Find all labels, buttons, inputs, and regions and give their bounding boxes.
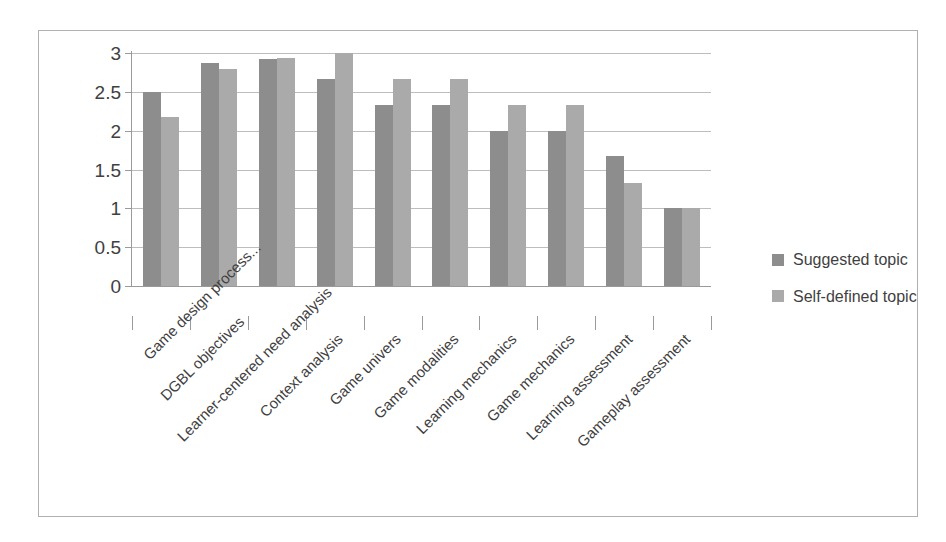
bar-group[interactable]: [364, 53, 422, 286]
bar-group[interactable]: [422, 53, 480, 286]
x-axis-tick: [537, 316, 538, 330]
legend-item[interactable]: Self-defined topic: [772, 288, 946, 306]
legend-swatch-icon: [772, 290, 784, 302]
x-axis-tick: [711, 316, 712, 330]
bar-group[interactable]: [537, 53, 595, 286]
bar[interactable]: [317, 79, 335, 286]
y-axis-tick-label: 2: [110, 121, 121, 140]
y-axis-tick: [125, 92, 132, 93]
y-axis-tick: [125, 208, 132, 209]
plot-area: 32.521.510.50: [132, 53, 711, 286]
bar-group[interactable]: [306, 53, 364, 286]
x-axis-tick: [422, 316, 423, 330]
bar[interactable]: [490, 131, 508, 286]
y-axis-tick: [125, 131, 132, 132]
bar-group[interactable]: [132, 53, 190, 286]
y-axis-tick-label: 2.5: [95, 82, 121, 101]
y-axis-tick: [125, 286, 132, 287]
y-axis-tick-label: 3: [110, 44, 121, 63]
x-axis-category-label: Game design process...: [140, 331, 171, 362]
x-axis-tick: [479, 316, 480, 330]
bar-group[interactable]: [479, 53, 537, 286]
bar[interactable]: [393, 79, 411, 286]
chart-container: 32.521.510.50 Game design process...DGBL…: [38, 30, 918, 517]
y-axis-tick: [125, 53, 132, 54]
y-axis-tick-label: 1: [110, 199, 121, 218]
y-axis-tick: [125, 170, 132, 171]
bar[interactable]: [161, 117, 179, 286]
bar[interactable]: [432, 105, 450, 286]
bar[interactable]: [548, 131, 566, 286]
legend-item[interactable]: Suggested topic: [772, 251, 946, 269]
y-axis-tick: [125, 247, 132, 248]
bar[interactable]: [335, 53, 353, 286]
legend-label: Self-defined topic: [793, 288, 917, 306]
bar[interactable]: [606, 156, 624, 286]
x-axis-tick: [364, 316, 365, 330]
bar[interactable]: [682, 208, 700, 286]
bar-group[interactable]: [595, 53, 653, 286]
y-axis-tick-label: 0.5: [95, 238, 121, 257]
legend-label: Suggested topic: [793, 251, 908, 269]
x-axis-category-label: Learner-centered need analysis: [174, 331, 287, 444]
bar[interactable]: [508, 105, 526, 286]
bar[interactable]: [566, 105, 584, 286]
bar[interactable]: [219, 69, 237, 286]
x-axis-tick: [132, 316, 133, 330]
bar[interactable]: [375, 105, 393, 286]
bar[interactable]: [201, 63, 219, 286]
x-axis-tick: [248, 316, 249, 330]
legend-swatch-icon: [772, 254, 784, 266]
bar-group[interactable]: [653, 53, 711, 286]
y-axis-tick-label: 0: [110, 277, 121, 296]
chart-legend: Suggested topicSelf-defined topic: [772, 251, 946, 324]
bar[interactable]: [277, 58, 295, 286]
bars-layer: [132, 53, 711, 286]
bar[interactable]: [624, 183, 642, 286]
bar[interactable]: [450, 79, 468, 286]
y-axis-tick-label: 1.5: [95, 160, 121, 179]
x-axis-tick: [595, 316, 596, 330]
bar[interactable]: [664, 208, 682, 286]
x-axis-tick: [653, 316, 654, 330]
bar[interactable]: [143, 92, 161, 286]
